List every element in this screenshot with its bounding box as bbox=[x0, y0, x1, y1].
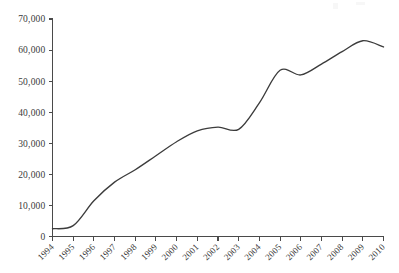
y-axis-tick-label: 30,000 bbox=[18, 139, 45, 149]
y-axis-tick-label: 20,000 bbox=[18, 170, 45, 180]
x-axis-tick-label: 2003 bbox=[222, 242, 243, 263]
x-axis-tick-label: 2002 bbox=[201, 242, 221, 262]
y-axis-tick-label: 50,000 bbox=[18, 77, 45, 87]
x-axis-tick-label: 1997 bbox=[98, 242, 119, 263]
x-axis-tick-label: 2008 bbox=[325, 242, 346, 263]
x-axis-tick-label: 2000 bbox=[160, 242, 181, 263]
figure-canvas: 010,00020,00030,00040,00050,00060,00070,… bbox=[0, 0, 399, 273]
data-series-line bbox=[53, 41, 384, 229]
y-axis-tick-labels: 010,00020,00030,00040,00050,00060,00070,… bbox=[18, 14, 45, 242]
x-axis-tick-label: 2001 bbox=[180, 242, 200, 262]
x-axis-ticks bbox=[53, 237, 384, 241]
x-axis-tick-label: 2007 bbox=[304, 242, 325, 263]
x-axis-tick-label: 2010 bbox=[367, 242, 388, 263]
y-axis-tick-label: 60,000 bbox=[18, 45, 45, 55]
y-axis-tick-label: 0 bbox=[41, 232, 46, 242]
x-axis-tick-label: 1994 bbox=[36, 242, 57, 263]
x-axis-tick-label: 2006 bbox=[284, 242, 305, 263]
x-axis: 1994199519961997199819992000200120022003… bbox=[36, 237, 388, 263]
x-axis-tick-label: 2004 bbox=[242, 242, 263, 263]
x-axis-tick-label: 1999 bbox=[139, 242, 160, 263]
y-axis-ticks bbox=[49, 19, 53, 237]
x-axis-tick-label: 1998 bbox=[118, 242, 139, 263]
line-chart: 010,00020,00030,00040,00050,00060,00070,… bbox=[0, 0, 399, 273]
y-axis: 010,00020,00030,00040,00050,00060,00070,… bbox=[18, 14, 52, 242]
x-axis-tick-label: 1995 bbox=[56, 242, 77, 263]
x-axis-tick-labels: 1994199519961997199819992000200120022003… bbox=[36, 242, 388, 263]
x-axis-tick-label: 2005 bbox=[263, 242, 284, 263]
y-axis-tick-label: 70,000 bbox=[18, 14, 45, 24]
x-axis-tick-label: 1996 bbox=[77, 242, 98, 263]
x-axis-tick-label: 2009 bbox=[346, 242, 367, 263]
y-axis-tick-label: 10,000 bbox=[18, 201, 45, 211]
y-axis-tick-label: 40,000 bbox=[18, 108, 45, 118]
